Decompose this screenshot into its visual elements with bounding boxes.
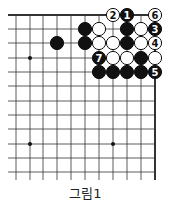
black-stone: 7	[92, 51, 105, 64]
white-stone	[92, 22, 105, 35]
move-number: 4	[152, 38, 159, 49]
white-stone: 4	[148, 36, 161, 49]
black-stone	[78, 36, 91, 49]
white-stone	[106, 36, 119, 49]
black-stone	[134, 65, 147, 78]
black-stone	[106, 65, 119, 78]
star-point	[28, 56, 32, 60]
black-stone: 5	[148, 65, 161, 78]
move-number: 2	[110, 10, 117, 21]
black-stone: 1	[120, 8, 133, 21]
move-number: 7	[96, 53, 103, 64]
star-point	[28, 142, 32, 146]
star-point	[111, 142, 115, 146]
black-stone	[120, 65, 133, 78]
black-stone: 3	[148, 22, 161, 35]
black-stone	[120, 36, 133, 49]
white-stone	[106, 51, 119, 64]
white-stone	[134, 36, 147, 49]
white-stone: 2	[106, 8, 119, 21]
move-number: 1	[124, 10, 131, 21]
white-stone	[92, 36, 105, 49]
go-board-diagram: 2163475	[0, 0, 171, 184]
move-number: 3	[152, 24, 159, 35]
figure-caption: 그림1	[0, 183, 171, 202]
white-stone	[148, 51, 161, 64]
stones: 2163475	[50, 8, 161, 78]
black-stone	[92, 65, 105, 78]
black-stone	[78, 22, 91, 35]
move-number: 5	[152, 67, 159, 78]
white-stone	[134, 22, 147, 35]
move-number: 6	[152, 10, 159, 21]
white-stone: 6	[148, 8, 161, 21]
black-stone	[134, 51, 147, 64]
black-stone	[50, 36, 63, 49]
white-stone	[120, 51, 133, 64]
black-stone	[120, 22, 133, 35]
